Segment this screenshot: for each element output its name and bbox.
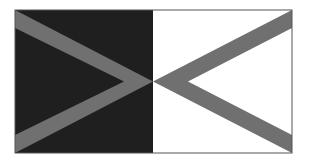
figure-canvas bbox=[0, 0, 310, 164]
chevron-figure bbox=[0, 0, 310, 164]
